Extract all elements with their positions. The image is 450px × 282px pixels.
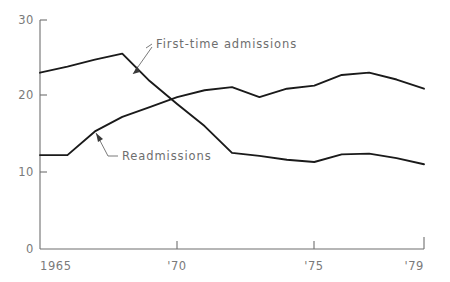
y-tick-label-20: 20 [18, 88, 34, 102]
series-label-first-time-admissions: First-time admissions [156, 37, 297, 51]
x-tick-label-1979: '79 [404, 259, 424, 273]
y-tick-label-10: 10 [18, 165, 34, 179]
y-tick-label-0: 0 [26, 242, 34, 256]
series-label-readmissions: Readmissions [122, 149, 212, 163]
first-time-arrowhead [133, 66, 140, 74]
x-tick-label-1965: 1965 [40, 259, 72, 273]
y-tick-label-30: 30 [18, 13, 34, 27]
series-line-readmissions [40, 73, 424, 155]
readmissions-arrowhead [96, 133, 103, 142]
chart-canvas: 30 20 10 0 1965 '70 '75 '79 First-time a… [0, 0, 450, 282]
x-tick-label-1970: '70 [167, 259, 187, 273]
series-line-first-time-admissions [40, 54, 424, 165]
first-time-leader-tick [146, 44, 152, 48]
x-tick-label-1975: '75 [304, 259, 324, 273]
line-chart: 30 20 10 0 1965 '70 '75 '79 First-time a… [0, 0, 450, 282]
